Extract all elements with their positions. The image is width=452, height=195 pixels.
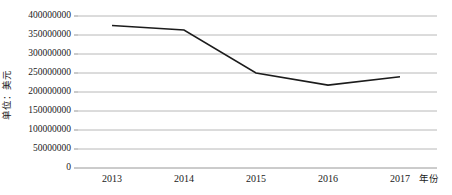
x-tick-label: 2015 — [246, 173, 266, 184]
y-tick-label: 200000000 — [28, 86, 71, 96]
x-axis-title: 年份 — [419, 173, 439, 184]
y-tick-label: 50000000 — [33, 143, 71, 153]
y-axis-title: 单位：美元 — [1, 70, 12, 120]
line-chart: 400000000 350000000 300000000 250000000 … — [0, 0, 452, 195]
y-tick-label: 400000000 — [28, 10, 71, 20]
chart-canvas: 400000000 350000000 300000000 250000000 … — [0, 0, 452, 195]
x-tick-label: 2017 — [390, 173, 410, 184]
y-tick-label: 100000000 — [28, 124, 71, 134]
x-tick-label: 2013 — [102, 173, 122, 184]
y-tick-label: 0 — [66, 162, 71, 172]
y-tick-label: 250000000 — [28, 67, 71, 77]
y-tick-label: 350000000 — [28, 29, 71, 39]
y-axis-tick-labels: 400000000 350000000 300000000 250000000 … — [28, 10, 71, 172]
x-tick-label: 2016 — [318, 173, 338, 184]
x-tick-label: 2014 — [174, 173, 194, 184]
y-tick-label: 150000000 — [28, 105, 71, 115]
y-tick-label: 300000000 — [28, 48, 71, 58]
